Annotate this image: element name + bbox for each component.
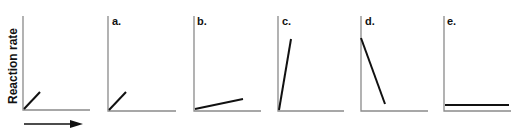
panel-label: b. [197,15,207,27]
panel-axes [444,16,511,111]
rate-line [195,99,243,109]
panel-label: a. [112,15,121,27]
panel-c: c. [278,15,344,111]
panel-ref [23,16,90,110]
arrow-head-icon [70,120,83,128]
rate-line [279,39,291,110]
panel-label: c. [282,15,291,27]
rate-line [109,92,126,110]
reaction-rate-chart: Reaction rate a.b.c.d.e. [0,0,519,134]
x-axis-arrow [24,120,83,128]
panel-label: e. [447,15,456,27]
panel-label: d. [365,15,375,27]
rate-line [24,92,40,109]
panel-axes [278,16,344,111]
panel-axes [108,16,176,111]
y-axis-label: Reaction rate [6,28,20,104]
panel-axes [194,16,261,111]
panel-b: b. [194,15,261,111]
panel-d: d. [361,15,428,111]
panel-axes [23,16,90,110]
panel-a: a. [108,15,176,111]
rate-line [361,38,385,104]
panels: a.b.c.d.e. [23,15,511,111]
panel-e: e. [444,15,511,111]
